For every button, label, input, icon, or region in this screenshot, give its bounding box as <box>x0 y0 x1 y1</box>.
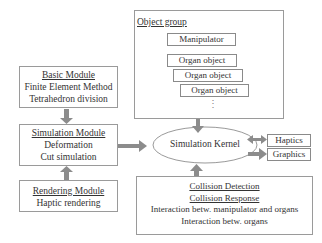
collision-line: Interaction betw. organs <box>137 216 312 228</box>
collision-line: Interaction betw. manipulator and organs <box>137 204 312 216</box>
organ-object-box-1: Organ object <box>167 54 237 67</box>
rendering-module-line: Haptic rendering <box>20 197 117 209</box>
rendering-module-box: Rendering Module Haptic rendering <box>19 180 118 212</box>
basic-module-title: Basic Module <box>20 69 117 81</box>
object-group-title: Object group <box>137 17 187 27</box>
simulation-module-box: Simulation Module Deformation Cut simula… <box>19 124 118 166</box>
simulation-module-line: Cut simulation <box>20 151 117 163</box>
collision-detection-title: Collision Detection <box>137 181 312 193</box>
collision-box: Collision Detection Collision Response I… <box>136 176 313 235</box>
collision-response-title: Collision Response <box>137 193 312 205</box>
arrow-rendering-to-simulation <box>60 166 73 181</box>
simulation-module-title: Simulation Module <box>20 127 117 139</box>
manipulator-box: Manipulator <box>167 33 236 46</box>
basic-module-box: Basic Module Finite Element Method Tetra… <box>19 66 118 108</box>
haptics-box: Haptics <box>267 134 311 147</box>
arrow-basic-to-simulation <box>60 109 73 124</box>
simulation-module-line: Deformation <box>20 139 117 151</box>
organ-object-box-2: Organ object <box>173 69 243 82</box>
ellipsis-icon: ⋮ <box>208 98 218 109</box>
organ-object-box-3: Organ object <box>180 84 249 97</box>
rendering-module-title: Rendering Module <box>20 185 117 197</box>
basic-module-line: Tetrahedron division <box>20 93 117 105</box>
basic-module-line: Finite Element Method <box>20 81 117 93</box>
simulation-kernel-label: Simulation Kernel <box>153 139 257 149</box>
arrow-simulation-to-kernel <box>118 140 147 152</box>
graphics-box: Graphics <box>267 148 311 161</box>
